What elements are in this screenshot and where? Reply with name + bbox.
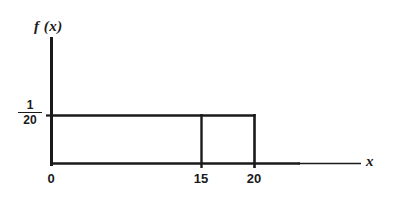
x-axis-label: x bbox=[366, 154, 374, 169]
x-tick-label-0: 0 bbox=[40, 172, 62, 185]
y-axis-label: f (x) bbox=[34, 19, 63, 34]
fraction-numerator: 1 bbox=[14, 99, 46, 112]
x-tick-label-20: 20 bbox=[243, 172, 265, 185]
y-tick-label-one-twentieth: 1 20 bbox=[14, 99, 46, 126]
uniform-distribution-figure: f (x) x 1 20 0 15 20 bbox=[0, 0, 402, 215]
x-tick-label-15: 15 bbox=[190, 172, 212, 185]
fraction-denominator: 20 bbox=[14, 113, 46, 126]
